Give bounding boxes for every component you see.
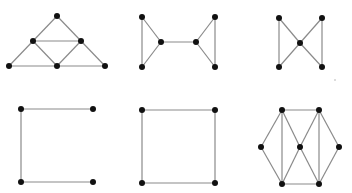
node-br <box>212 64 218 70</box>
node-c <box>297 144 303 150</box>
node-bl <box>18 179 24 185</box>
edge-bl-ml <box>142 42 161 67</box>
node-tr <box>212 14 218 20</box>
node-tl <box>18 106 24 112</box>
edge-mr-br <box>81 41 105 66</box>
node-mr <box>78 38 84 44</box>
node-tr <box>212 107 218 113</box>
node-bl <box>276 64 282 70</box>
node-tl <box>139 107 145 113</box>
node-ml <box>30 38 36 44</box>
edge-t2-c <box>300 110 319 147</box>
edges <box>142 17 215 67</box>
graph-two-triangles-bridge <box>139 14 218 70</box>
node-bl <box>139 180 145 186</box>
node-br <box>90 179 96 185</box>
nodes <box>258 107 342 187</box>
node-r <box>336 144 342 150</box>
node-br <box>212 180 218 186</box>
graph-butterfly <box>276 15 325 70</box>
node-bl <box>6 63 12 69</box>
edge-c-tr <box>300 18 322 43</box>
edge-c-b1 <box>282 147 300 184</box>
edge-top-mr <box>57 16 81 41</box>
node-c <box>297 40 303 46</box>
node-t2 <box>316 107 322 113</box>
nodes <box>139 107 218 186</box>
node-tl <box>276 15 282 21</box>
graph-path-c-shape <box>18 106 96 185</box>
edge-l-t1 <box>261 110 282 147</box>
node-bm <box>54 63 60 69</box>
node-t1 <box>279 107 285 113</box>
edge-tl-c <box>279 18 300 43</box>
edge-top-ml <box>33 16 57 41</box>
edge-mr-tr <box>196 17 215 42</box>
edge-t1-c <box>282 110 300 147</box>
edge-t2-r <box>319 110 339 147</box>
node-bl <box>139 64 145 70</box>
node-tr <box>90 106 96 112</box>
edge-tl-ml <box>142 17 161 42</box>
edge-ml-bl <box>9 41 33 66</box>
nodes <box>18 106 96 185</box>
node-b2 <box>316 181 322 187</box>
node-ml <box>158 39 164 45</box>
node-l <box>258 144 264 150</box>
edges <box>9 16 105 66</box>
node-b1 <box>279 181 285 187</box>
node-top <box>54 13 60 19</box>
edges <box>142 110 215 183</box>
edge-ml-bm <box>33 41 57 66</box>
edge-c-b2 <box>300 147 319 184</box>
graph-hexagonal-triangulated <box>258 107 342 187</box>
edge-l-b1 <box>261 147 282 184</box>
edge-bl-c <box>279 43 300 67</box>
node-tr <box>319 15 325 21</box>
edge-mr-br <box>196 42 215 67</box>
graph-triangle-subdivided <box>6 13 108 69</box>
node-mr <box>193 39 199 45</box>
node-br <box>102 63 108 69</box>
node-br <box>319 64 325 70</box>
stray-mark <box>334 79 336 81</box>
edge-mr-bm <box>57 41 81 66</box>
graph-square-cycle <box>139 107 218 186</box>
edge-r-b2 <box>319 147 339 184</box>
graph-figure: Six small undirected graphs <box>0 0 352 193</box>
node-tl <box>139 14 145 20</box>
edges <box>21 109 93 182</box>
edge-c-br <box>300 43 322 67</box>
